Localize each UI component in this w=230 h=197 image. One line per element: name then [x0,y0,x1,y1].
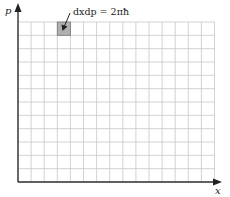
x-axis-label: x [215,185,221,196]
annotation-label: dxdp = 2πħ [73,6,129,17]
grid-lines [18,22,215,182]
y-axis-arrow-icon [15,3,22,12]
phase-space-diagram: p x dxdp = 2πħ [0,0,230,197]
y-axis-label: p [5,5,12,16]
